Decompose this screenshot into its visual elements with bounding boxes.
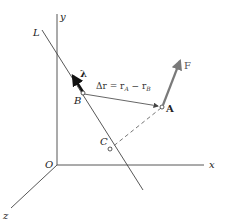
perpendicular-dashed-line xyxy=(111,108,161,148)
vector-diagram: y x z O L λ B A C F Δr = rA − rB xyxy=(0,0,230,222)
line-L-label: L xyxy=(32,27,40,38)
eq-minus: − r xyxy=(129,81,147,91)
svg-text:Δr = rA − rB: Δr = rA − rB xyxy=(96,81,151,92)
origin-label: O xyxy=(45,159,53,170)
force-arrow-F xyxy=(163,61,180,105)
point-C-marker xyxy=(108,147,112,151)
y-axis-label: y xyxy=(59,11,66,22)
point-C-label: C xyxy=(100,136,108,147)
z-axis-label: z xyxy=(2,210,9,221)
position-vector-delta-r xyxy=(84,94,158,106)
force-F-label: F xyxy=(184,60,191,71)
x-axis-label: x xyxy=(209,159,215,170)
delta-r-equation: Δr = rA − rB xyxy=(96,81,151,92)
point-B-label: B xyxy=(73,95,81,106)
point-B-marker xyxy=(81,91,85,95)
z-axis xyxy=(11,165,57,208)
eq-lhs: Δr = r xyxy=(96,81,125,91)
lambda-label: λ xyxy=(80,68,87,79)
point-A-marker xyxy=(160,105,164,109)
point-A-label: A xyxy=(165,103,174,114)
eq-sub-B: B xyxy=(145,85,151,92)
